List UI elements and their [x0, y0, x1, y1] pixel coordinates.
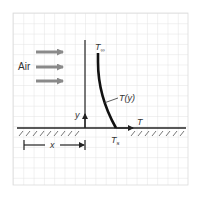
x-dimension-label: x: [49, 140, 55, 150]
boundary-layer-diagram: Air y T: [0, 0, 202, 203]
grid-background: [13, 13, 188, 185]
air-label: Air: [18, 61, 31, 72]
y-axis-label: y: [74, 110, 80, 120]
t-y-label: T(y): [119, 93, 135, 103]
